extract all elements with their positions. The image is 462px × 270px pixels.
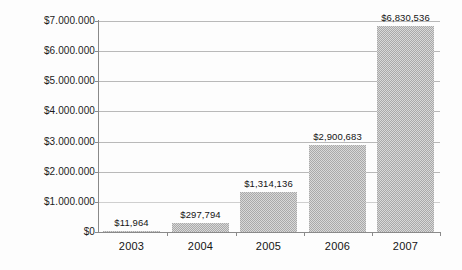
x-axis-line (98, 232, 441, 233)
bar-label-2007: $6,830,536 (381, 12, 430, 23)
x-axis-label-2007: 2007 (377, 240, 434, 252)
x-axis-label-2005: 2005 (240, 240, 297, 252)
bar-slot-2007: $6,830,536 (377, 21, 434, 232)
y-axis-tick-labels: $7.000.000 $6.000.000 $5.000.000 $4.000.… (0, 0, 95, 270)
y-tick-label-5000000: $5.000.000 (3, 75, 95, 86)
bar-chart-figure: $11,964 $297,794 $1,314,136 $2,900,683 $… (0, 0, 462, 270)
bar-label-2006: $2,900,683 (313, 131, 362, 142)
y-tick-mark-3000000 (95, 142, 99, 143)
y-tick-mark-7000000 (95, 21, 99, 22)
bar-slot-2006: $2,900,683 (309, 21, 366, 232)
y-tick-label-7000000: $7.000.000 (3, 15, 95, 26)
y-tick-label-2000000: $2.000.000 (3, 166, 95, 177)
bar-label-2003: $11,964 (114, 217, 148, 228)
bar-2006[interactable] (309, 145, 366, 232)
bar-label-2004: $297,794 (180, 209, 220, 220)
plot-area: $11,964 $297,794 $1,314,136 $2,900,683 $… (99, 21, 440, 232)
x-axis-label-2006: 2006 (309, 240, 366, 252)
bar-slot-2003: $11,964 (103, 21, 160, 232)
y-tick-mark-4000000 (95, 111, 99, 112)
y-tick-mark-6000000 (95, 51, 99, 52)
x-tick-mark-1 (167, 232, 168, 236)
bar-label-2005: $1,314,136 (244, 178, 293, 189)
x-axis-label-2003: 2003 (103, 240, 160, 252)
y-tick-mark-5000000 (95, 81, 99, 82)
bar-slot-2004: $297,794 (172, 21, 229, 232)
bar-2004[interactable] (172, 223, 229, 232)
y-tick-mark-1000000 (95, 202, 99, 203)
y-tick-label-1000000: $1.000.000 (3, 196, 95, 207)
x-tick-mark-5 (440, 232, 441, 236)
bar-2007[interactable] (377, 26, 434, 232)
bar-slot-2005: $1,314,136 (240, 21, 297, 232)
x-tick-mark-3 (304, 232, 305, 236)
x-axis-label-2004: 2004 (172, 240, 229, 252)
bar-2005[interactable] (240, 192, 297, 232)
y-tick-label-4000000: $4.000.000 (3, 105, 95, 116)
y-tick-mark-0 (95, 232, 99, 233)
y-tick-label-3000000: $3.000.000 (3, 136, 95, 147)
y-tick-label-6000000: $6.000.000 (3, 45, 95, 56)
y-tick-label-0: $0 (3, 226, 95, 237)
x-tick-mark-2 (236, 232, 237, 236)
x-tick-mark-4 (372, 232, 373, 236)
y-tick-mark-2000000 (95, 172, 99, 173)
